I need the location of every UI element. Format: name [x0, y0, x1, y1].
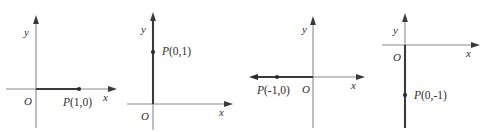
point-label-prefix: P	[257, 84, 264, 96]
x-axis-arrowhead	[108, 86, 117, 92]
y-axis-label: y	[141, 24, 146, 35]
origin-label: O	[302, 84, 310, 95]
origin-label: O	[141, 111, 149, 122]
panel-1-axes-graphic	[0, 0, 123, 132]
point-label-prefix: P	[414, 89, 421, 101]
origin-label: O	[393, 52, 401, 63]
point-label-prefix: P	[162, 45, 169, 57]
coordinate-plane-panel-2: y x O P(0,1)	[123, 0, 248, 132]
figure-canvas: y x O P(1,0) y x O P(0,1)	[0, 0, 492, 132]
point-marker	[151, 50, 155, 54]
y-axis-arrowhead	[150, 12, 156, 21]
panel-4-axes-graphic	[378, 0, 492, 132]
x-axis-arrowhead	[471, 42, 480, 48]
x-axis-label: x	[103, 92, 108, 103]
unit-vector-arrowhead	[249, 74, 258, 80]
x-axis-label: x	[351, 80, 356, 91]
point-label-coords: (0,1)	[169, 45, 191, 57]
coordinate-plane-panel-4: y x O P(0,-1)	[378, 0, 492, 132]
x-axis-arrowhead	[356, 74, 365, 80]
x-axis-label: x	[219, 107, 224, 118]
point-marker	[275, 75, 279, 79]
point-marker	[77, 87, 81, 91]
y-axis-arrowhead	[402, 13, 408, 22]
y-axis-arrowhead	[310, 16, 316, 25]
point-label: P(1,0)	[63, 97, 92, 109]
panel-3-axes-graphic	[248, 0, 378, 132]
point-label: P(-1,0)	[257, 85, 290, 97]
x-axis-arrowhead	[224, 101, 233, 107]
y-axis-label: y	[24, 27, 29, 38]
origin-label: O	[24, 96, 32, 107]
point-label-coords: (-1,0)	[264, 84, 290, 96]
point-marker	[403, 93, 407, 97]
y-axis-label: y	[393, 25, 398, 36]
y-axis-label: y	[302, 24, 307, 35]
coordinate-plane-panel-3: y x O P(-1,0)	[248, 0, 378, 132]
x-axis-label: x	[466, 48, 471, 59]
point-label: P(0,1)	[162, 46, 191, 58]
point-label: P(0,-1)	[414, 90, 447, 102]
coordinate-plane-panel-1: y x O P(1,0)	[0, 0, 123, 132]
point-label-coords: (1,0)	[70, 96, 92, 108]
y-axis-arrowhead	[33, 15, 39, 24]
point-label-coords: (0,-1)	[421, 89, 447, 101]
point-label-prefix: P	[63, 96, 70, 108]
